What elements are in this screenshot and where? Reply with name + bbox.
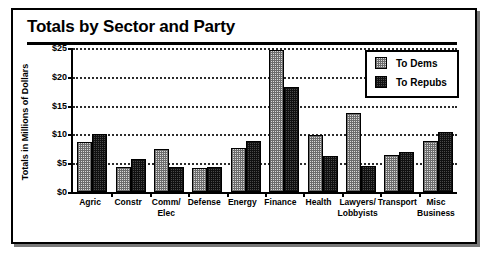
x-axis-tick-label: Constr bbox=[109, 197, 147, 219]
legend-swatch-repubs bbox=[375, 76, 387, 88]
y-axis-tick-label: $5 bbox=[57, 158, 67, 168]
y-axis-tick-label: $10 bbox=[52, 129, 67, 139]
bar-dems bbox=[384, 155, 399, 192]
x-axis-tick-label: Transport bbox=[378, 197, 417, 219]
legend-label-dems: To Dems bbox=[396, 58, 438, 69]
x-axis-labels: AgricConstrComm/ElecDefenseEnergyFinance… bbox=[71, 197, 455, 219]
bar-repubs bbox=[246, 141, 261, 192]
legend-label-repubs: To Repubs bbox=[396, 77, 447, 88]
y-axis-tick-label: $20 bbox=[52, 72, 67, 82]
bar-repubs bbox=[438, 132, 453, 192]
bar-dems bbox=[154, 149, 169, 192]
chart-title: Totals by Sector and Party bbox=[27, 17, 235, 37]
chart-figure: Totals by Sector and Party Totals in Mil… bbox=[11, 8, 477, 244]
y-axis-tick-label: $15 bbox=[52, 101, 67, 111]
bar-repubs bbox=[92, 134, 107, 192]
x-axis-tick-label: MiscBusiness bbox=[417, 197, 455, 219]
bar-group bbox=[150, 48, 188, 192]
bar-repubs bbox=[131, 159, 146, 192]
bar-dems bbox=[231, 148, 246, 192]
bar-group bbox=[73, 48, 111, 192]
bar-dems bbox=[423, 141, 438, 192]
y-axis-label: Totals in Millions of Dollars bbox=[20, 50, 34, 194]
bar-group bbox=[265, 48, 303, 192]
bar-dems bbox=[269, 50, 284, 192]
bar-group bbox=[227, 48, 265, 192]
bar-repubs bbox=[399, 152, 414, 192]
bar-group bbox=[303, 48, 341, 192]
x-axis-tick-label: Energy bbox=[223, 197, 261, 219]
x-axis-tick-label: Health bbox=[299, 197, 337, 219]
title-divider bbox=[27, 42, 457, 45]
bar-dems bbox=[346, 113, 361, 192]
bar-repubs bbox=[169, 167, 184, 192]
x-axis-tick-label: Lawyers/Lobbyists bbox=[338, 197, 378, 219]
bar-repubs bbox=[284, 87, 299, 192]
bar-dems bbox=[308, 135, 323, 192]
y-axis-tick-mark bbox=[68, 192, 73, 194]
x-axis-tick-label: Agric bbox=[71, 197, 109, 219]
x-axis-tick-label: Defense bbox=[185, 197, 223, 219]
bar-repubs bbox=[207, 167, 222, 192]
y-axis-tick-label: $0 bbox=[57, 187, 67, 197]
legend-swatch-dems bbox=[375, 57, 387, 69]
bar-repubs bbox=[361, 166, 376, 192]
chart-legend: To Dems To Repubs bbox=[365, 50, 459, 98]
x-axis-tick-label: Finance bbox=[261, 197, 299, 219]
bar-group bbox=[188, 48, 226, 192]
x-axis-tick-label: Comm/Elec bbox=[147, 197, 185, 219]
legend-item-repubs: To Repubs bbox=[375, 76, 457, 88]
bar-dems bbox=[116, 167, 131, 192]
bar-repubs bbox=[323, 156, 338, 192]
y-axis-tick-label: $25 bbox=[52, 43, 67, 53]
bar-group bbox=[111, 48, 149, 192]
legend-item-dems: To Dems bbox=[375, 57, 457, 69]
bar-dems bbox=[77, 142, 92, 192]
bar-dems bbox=[192, 168, 207, 192]
